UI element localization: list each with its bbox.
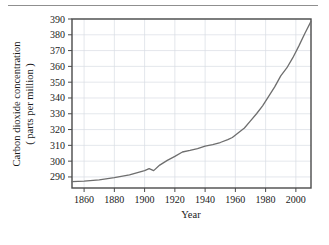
x-tick-label: 1900	[135, 194, 155, 205]
y-tick-label: 350	[50, 77, 65, 88]
y-axis-ticks: 290300310320330340350360370380390	[50, 14, 72, 183]
x-tick-label: 1880	[104, 194, 124, 205]
x-axis-title: Year	[181, 209, 201, 220]
x-tick-label: 1960	[225, 194, 245, 205]
y-tick-label: 310	[50, 140, 65, 151]
y-axis-title-line1: Carbon dioxide concentration	[11, 41, 22, 167]
y-tick-label: 380	[50, 29, 65, 40]
x-tick-label: 1860	[74, 194, 94, 205]
y-axis-title-line2: ( parts per million )	[24, 63, 36, 145]
y-tick-label: 370	[50, 45, 65, 56]
y-tick-label: 290	[50, 171, 65, 182]
grid-lines	[72, 19, 311, 188]
figure-container: 290300310320330340350360370380390 186018…	[0, 0, 329, 245]
y-tick-label: 340	[50, 92, 65, 103]
co2-data-line	[72, 21, 311, 181]
x-tick-label: 1920	[165, 194, 185, 205]
chart-svg: 290300310320330340350360370380390 186018…	[0, 0, 329, 245]
y-tick-label: 360	[50, 61, 65, 72]
x-axis-ticks: 18601880190019201940196019802000	[74, 188, 306, 205]
plot-frame	[72, 19, 311, 188]
x-tick-label: 1980	[256, 194, 276, 205]
co2-line-chart: 290300310320330340350360370380390 186018…	[0, 0, 329, 245]
y-tick-label: 300	[50, 156, 65, 167]
y-tick-label: 330	[50, 108, 65, 119]
y-tick-label: 390	[50, 14, 65, 25]
x-tick-label: 1940	[195, 194, 215, 205]
y-tick-label: 320	[50, 124, 65, 135]
x-tick-label: 2000	[286, 194, 306, 205]
